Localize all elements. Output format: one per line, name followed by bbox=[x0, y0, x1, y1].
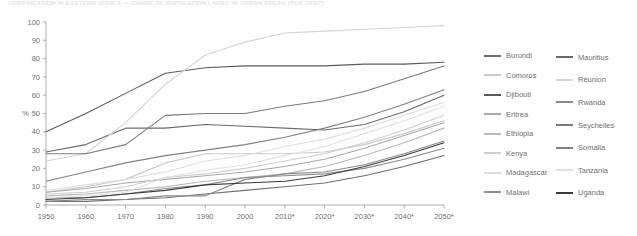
chart-legend: BurundiComorosDjiboutiEritreaEthiopiaKen… bbox=[484, 46, 637, 216]
y-axis-tick-label: 20 bbox=[32, 164, 40, 173]
line-chart-svg: 0102030405060708090100%19501960197019801… bbox=[0, 10, 470, 236]
y-axis-label: % bbox=[22, 109, 29, 118]
y-axis-tick-label: 30 bbox=[32, 146, 40, 155]
legend-item-label: Comoros bbox=[506, 71, 536, 80]
y-axis-tick-label: 0 bbox=[36, 201, 40, 210]
legend-item[interactable]: Malawi bbox=[484, 183, 556, 203]
legend-item[interactable]: Uganda bbox=[556, 182, 637, 205]
legend-item-label: Eritrea bbox=[506, 110, 528, 119]
legend-item[interactable]: Rwanda bbox=[556, 91, 637, 114]
legend-item[interactable]: Somalia bbox=[556, 136, 637, 159]
legend-item-label: Seychelles bbox=[578, 121, 614, 130]
legend-item[interactable]: Djibouti bbox=[484, 85, 556, 105]
legend-item[interactable]: Kenya bbox=[484, 144, 556, 164]
legend-item[interactable]: Burundi bbox=[484, 46, 556, 66]
plot-area: 0102030405060708090100%19501960197019801… bbox=[0, 10, 470, 236]
y-axis-tick-label: 50 bbox=[32, 109, 40, 118]
x-axis-tick-label: 2020* bbox=[315, 212, 335, 221]
x-axis-tick-label: 1950 bbox=[38, 212, 55, 221]
x-axis-tick-label: 2010* bbox=[275, 212, 295, 221]
y-axis-tick-label: 100 bbox=[27, 18, 40, 27]
x-axis-tick-label: 2050* bbox=[434, 212, 454, 221]
legend-line-swatch bbox=[484, 172, 501, 174]
legend-column-1: BurundiComorosDjiboutiEritreaEthiopiaKen… bbox=[484, 46, 556, 216]
legend-item[interactable]: Tanzania bbox=[556, 159, 637, 182]
legend-item-label: Djibouti bbox=[506, 90, 531, 99]
legend-item-label: Malawi bbox=[506, 188, 529, 197]
legend-item-label: Uganda bbox=[578, 188, 604, 197]
legend-line-swatch bbox=[556, 124, 573, 126]
legend-item[interactable]: Comoros bbox=[484, 66, 556, 86]
legend-item-label: Ethiopia bbox=[506, 129, 533, 138]
series-line bbox=[46, 66, 444, 154]
x-axis-tick-label: 1990 bbox=[197, 212, 214, 221]
y-axis-tick-label: 60 bbox=[32, 91, 40, 100]
y-axis-tick-label: 80 bbox=[32, 54, 40, 63]
legend-line-swatch bbox=[556, 192, 573, 194]
legend-item-label: Réunion bbox=[578, 75, 606, 84]
x-axis-tick-label: 1980 bbox=[157, 212, 174, 221]
legend-item-label: Burundi bbox=[506, 51, 532, 60]
legend-line-swatch bbox=[484, 191, 501, 193]
y-axis-tick-label: 40 bbox=[32, 127, 40, 136]
chart-page: URBANIZATION IN EASTERN AFRICA — SHARE O… bbox=[0, 0, 637, 236]
y-axis-tick-label: 90 bbox=[32, 36, 40, 45]
legend-item[interactable]: Madagascar bbox=[484, 163, 556, 183]
legend-item[interactable]: Réunion bbox=[556, 69, 637, 92]
legend-line-swatch bbox=[484, 113, 501, 115]
legend-line-swatch bbox=[556, 169, 573, 171]
legend-item-label: Madagascar bbox=[506, 168, 547, 177]
series-line bbox=[46, 106, 444, 197]
legend-item-label: Kenya bbox=[506, 149, 527, 158]
legend-item-label: Mauritius bbox=[578, 53, 608, 62]
x-axis-tick-label: 1970 bbox=[117, 212, 134, 221]
legend-line-swatch bbox=[484, 133, 501, 135]
x-axis-tick-label: 2040* bbox=[394, 212, 414, 221]
legend-item-label: Rwanda bbox=[578, 98, 606, 107]
legend-line-swatch bbox=[484, 55, 501, 57]
y-axis-tick-label: 70 bbox=[32, 73, 40, 82]
legend-line-swatch bbox=[556, 79, 573, 81]
legend-item[interactable]: Mauritius bbox=[556, 46, 637, 69]
page-title: URBANIZATION IN EASTERN AFRICA — SHARE O… bbox=[8, 0, 628, 8]
x-axis-tick-label: 1960 bbox=[77, 212, 94, 221]
x-axis-tick-label: 2000 bbox=[237, 212, 254, 221]
legend-item[interactable]: Eritrea bbox=[484, 105, 556, 125]
legend-column-2: MauritiusRéunionRwandaSeychellesSomaliaT… bbox=[556, 46, 637, 216]
legend-line-swatch bbox=[556, 101, 573, 103]
legend-item[interactable]: Ethiopia bbox=[484, 124, 556, 144]
legend-line-swatch bbox=[556, 56, 573, 58]
legend-line-swatch bbox=[484, 74, 501, 76]
x-axis-tick-label: 2030* bbox=[355, 212, 375, 221]
legend-line-swatch bbox=[484, 152, 501, 154]
legend-item-label: Tanzania bbox=[578, 166, 608, 175]
legend-item-label: Somalia bbox=[578, 143, 605, 152]
legend-line-swatch bbox=[484, 94, 501, 96]
legend-item[interactable]: Seychelles bbox=[556, 114, 637, 137]
series-line bbox=[46, 121, 444, 192]
y-axis-tick-label: 10 bbox=[32, 182, 40, 191]
legend-line-swatch bbox=[556, 147, 573, 149]
series-line bbox=[46, 26, 444, 161]
